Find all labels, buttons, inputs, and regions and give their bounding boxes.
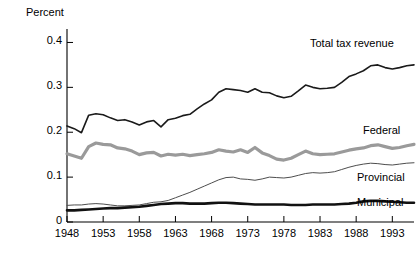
x-axis-ticks [67,216,392,222]
series-label-federal: Federal [363,124,400,136]
y-tick-label: 0 [18,214,62,226]
tax-revenue-line-chart: Percent 0.40.30.20.10 194819531958196319… [0,0,419,258]
x-tick-label: 1968 [199,227,223,239]
y-tick-label: 0.4 [18,34,62,46]
x-tick-label: 1988 [344,227,368,239]
x-tick-label: 1978 [272,227,296,239]
series-line-total-tax-revenue [67,65,414,133]
series-label-total-tax-revenue: Total tax revenue [310,37,394,49]
series-line-federal [67,143,414,160]
y-tick-label: 0.3 [18,79,62,91]
x-tick-label: 1948 [55,227,79,239]
x-tick-label: 1993 [380,227,404,239]
series-label-municipal: Municipal [357,196,403,208]
x-tick-label: 1958 [127,227,151,239]
y-axis-ticks [67,42,73,222]
x-tick-label: 1983 [308,227,332,239]
x-tick-label: 1963 [163,227,187,239]
y-tick-label: 0.1 [18,169,62,181]
x-tick-label: 1953 [91,227,115,239]
series-label-provincial: Provincial [357,171,405,183]
x-tick-label: 1973 [235,227,259,239]
y-tick-label: 0.2 [18,124,62,136]
series-lines [67,65,414,210]
axis-lines [67,29,414,222]
